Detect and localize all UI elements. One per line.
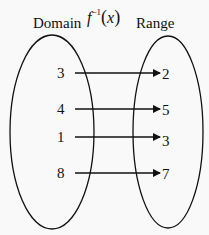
diagram-canvas (0, 0, 209, 235)
domain-value-3: 1 (57, 130, 65, 145)
inverse-superscript: −1 (91, 7, 101, 17)
range-ellipse (133, 36, 203, 228)
range-label: Range (136, 16, 174, 31)
domain-value-2: 4 (57, 102, 65, 117)
range-value-1: 2 (162, 67, 170, 82)
domain-ellipse (10, 35, 94, 229)
domain-label: Domain (33, 16, 81, 31)
range-value-2: 5 (162, 103, 170, 118)
function-title: f−1(x) (87, 4, 120, 26)
mapping-diagram: f−1(x) Domain Range 3 4 1 8 2 5 3 7 (0, 0, 209, 235)
domain-value-1: 3 (57, 66, 65, 81)
range-value-3: 3 (162, 134, 170, 149)
range-value-4: 7 (162, 167, 170, 182)
domain-value-4: 8 (57, 166, 65, 181)
close-paren: ) (114, 7, 120, 27)
